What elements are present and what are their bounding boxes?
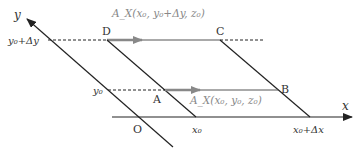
diagram-canvas: y x O y₀+Δy y₀ x₀ x₀+Δx D C A B A_X(x₀, … [0, 0, 361, 157]
x-axis-label: x [342, 99, 349, 113]
y-axis [27, 19, 173, 147]
vector-label-bottom: A_X(x₀, y₀, z₀) [189, 94, 262, 107]
point-label-d: D [102, 25, 111, 38]
vector-label-top: A_X(x₀, y₀+Δy, z₀) [111, 7, 205, 20]
line-d-x0 [107, 40, 196, 117]
tick-label-x0-dx: x₀+Δx [293, 124, 324, 135]
origin-label: O [133, 123, 142, 136]
tick-label-y0: y₀ [92, 85, 103, 96]
point-label-b: B [281, 83, 289, 96]
tick-label-x0: x₀ [192, 124, 202, 135]
y-axis-label: y [13, 8, 21, 22]
point-label-c: C [216, 25, 224, 38]
point-label-a: A [152, 93, 162, 106]
tick-label-y0-dy: y₀+Δy [7, 35, 39, 46]
